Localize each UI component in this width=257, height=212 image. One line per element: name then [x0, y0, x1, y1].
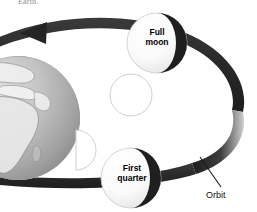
- new-moon-position-outline: [110, 74, 152, 116]
- orbit-label: Orbit: [206, 190, 226, 200]
- moon-phases-figure: Earth. Full moon First quarter Orbit: [0, 0, 257, 212]
- first-quarter-appearance-outline: [76, 130, 96, 170]
- diagram-canvas: [0, 0, 257, 212]
- page-caption-fragment: Earth.: [18, 0, 39, 6]
- earth-globe: [0, 56, 80, 180]
- first-quarter-moon-sphere: [101, 148, 161, 208]
- orbit-direction-arrow: [20, 22, 47, 44]
- orbit-band-right: [192, 110, 244, 174]
- full-moon-sphere: [127, 13, 187, 73]
